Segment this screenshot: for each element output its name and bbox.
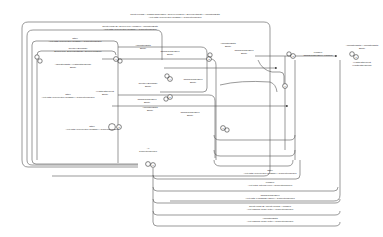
edge-left-bottom — [22, 160, 138, 167]
edge-inner-right-box-3 — [214, 160, 293, 166]
edge-labels: ClientHelloRSA / ChangeCipherSpec | Serv… — [42, 13, 379, 222]
label-other-b: Alert Fatal (Unexpected message) / Conne… — [42, 96, 96, 98]
label-init-a: All — [147, 147, 150, 149]
edge-bottom-4 — [153, 199, 340, 215]
label-r2a: ChangeCipherSpec — [234, 49, 254, 51]
label-bot1a: Other — [267, 169, 273, 171]
label-r1b: Empty — [225, 45, 232, 47]
edge-upper-rect — [118, 47, 207, 92]
label-far1b: Empty — [359, 47, 366, 49]
label-bot3b: Alert Fatal (Handshake failure) / Connec… — [245, 197, 295, 199]
label-top1b: Alert Fatal (Unexpected message) / Conne… — [149, 16, 203, 18]
label-mid2b: Empty — [167, 53, 174, 55]
edge-left-bottom-3 — [32, 160, 138, 164]
label-mid4b: Empty — [187, 114, 194, 116]
state-node-5[interactable]: 5 — [164, 95, 173, 102]
edge-right-curve — [258, 60, 284, 84]
label-top2b: Alert Fatal (Unexpected message) / Conne… — [104, 28, 158, 30]
edge-inner-right-box-2 — [214, 150, 295, 156]
label-cke-b: Empty — [145, 85, 152, 87]
edge-inner-right-box — [214, 135, 295, 140]
edge-bottom-3 — [153, 187, 340, 203]
label-left2a: ApplicationData / HeartbeatResponse — [55, 63, 92, 65]
label-mid2a: ChangeCipherSpec — [160, 50, 180, 52]
label-mid3b: Empty — [144, 101, 151, 103]
label-hb-a: HeartbeatRequest — [96, 90, 114, 92]
label-cke-a: ClientKeyExchange — [138, 82, 158, 84]
label-r1a: ApplicationData — [220, 42, 236, 44]
label-fin-a: Finished — [314, 51, 323, 53]
state-node-3[interactable]: 3 — [287, 52, 296, 59]
label-bot5b: Alert Warning (Close notify) / Connectio… — [247, 220, 294, 222]
label-mid4a: ChangeCipherSpec — [180, 111, 200, 113]
label-far2b: HeartbeatResponse — [352, 64, 372, 66]
label-bot2a: Finished — [266, 181, 275, 183]
label-top2a: ClientHelloDHE / ServerHello | Finished … — [102, 25, 158, 27]
label-ad-a: ApplicationData — [142, 106, 158, 108]
state-node-2[interactable]: 2 — [207, 53, 213, 62]
label-left2b: Empty — [70, 66, 77, 68]
state-node-7[interactable]: 7 — [221, 126, 230, 133]
label-alert-b: Alert Fatal (Unexpected message) / Conne… — [66, 128, 120, 130]
edge-right-curve-2 — [220, 81, 277, 92]
label-bot5a: ApplicationData — [262, 217, 278, 219]
label-other-a: Other — [65, 93, 71, 95]
state-node-1[interactable]: 1 — [350, 52, 359, 60]
label-bot2b: Alert Fatal (Internal error) / Connectio… — [248, 184, 293, 186]
state-node-4[interactable]: 4 — [165, 74, 173, 82]
label-left1a: ClientKeyExchange — [68, 47, 88, 49]
label-alert-a: Other — [89, 125, 95, 127]
state-node-start[interactable] — [35, 55, 42, 63]
label-r2b: Empty — [241, 52, 248, 54]
state-node-9[interactable]: 9 — [146, 162, 156, 168]
label-hb-b: Empty — [102, 93, 109, 95]
state-machine-diagram: 0 1 2 3 4 5 6 7 8 9 ClientHelloRSA / Cha — [0, 0, 383, 237]
label-bot4a: ClientHelloDHE | ClientHelloRSA | Finish… — [249, 205, 292, 207]
state-node-0[interactable]: 0 — [114, 57, 123, 64]
label-mid1b: Empty — [140, 47, 147, 49]
label-top3b: Alert Fatal (Unexpected message) / Conne… — [49, 40, 103, 42]
label-ad-b: Empty — [147, 109, 154, 111]
label-ccs-a: ChangeCipherSpec — [183, 78, 203, 80]
label-mid3a: ChangeCipherSpec — [137, 98, 157, 100]
edge-outer-4 — [37, 51, 116, 160]
label-top1a: ClientHelloRSA / ChangeCipherSpec | Serv… — [130, 13, 220, 15]
label-left1b: ServerHello, ServerCertificate | ServerH… — [54, 50, 102, 53]
edge-bottom-5 — [153, 211, 340, 226]
label-fin-b: ChangeCipherSpec | Finished — [303, 54, 333, 56]
label-mid1a: ApplicationData — [135, 44, 151, 46]
label-init-b: ConnectionClosed — [139, 150, 158, 152]
edge-inner-rect — [118, 95, 215, 158]
label-bot3a: ChangeCipherSpec — [260, 194, 280, 196]
label-far2a: HeartbeatRequest — [353, 61, 371, 63]
label-far1a: ApplicationData / ApplicationData — [346, 44, 379, 46]
label-bot4b: Alert Warning (Close notify) / Connectio… — [247, 208, 294, 210]
state-node-6[interactable]: 6 — [283, 84, 288, 89]
edge-bottom-2 — [153, 175, 338, 191]
label-ccs-b: Empty — [190, 81, 197, 83]
edge-box-b — [102, 59, 216, 160]
label-bot1b: Alert Fatal (Unexpected message) / Conne… — [244, 172, 298, 174]
label-top3a: Other — [72, 37, 78, 39]
